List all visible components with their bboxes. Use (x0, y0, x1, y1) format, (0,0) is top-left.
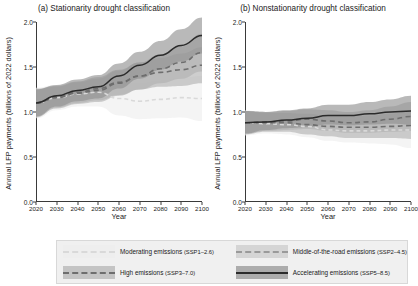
legend-scenario-code: (SSP2–4.5) (377, 249, 407, 255)
panel-a-x-tick-mark (119, 202, 120, 205)
panel-a-y-tick-mark (33, 67, 36, 68)
panel-a-y-tick-mark (33, 157, 36, 158)
legend-swatch (63, 266, 115, 279)
panel-a-y-tick-mark (33, 22, 36, 23)
panel-b-x-tick-mark (390, 202, 391, 205)
panel-b-curves (245, 22, 411, 202)
legend-scenario-code: (SSP3–7.0) (165, 270, 195, 276)
legend-label: Middle-of-the-road emissions (SSP2–4.5) (293, 248, 407, 255)
legend-swatch (236, 245, 288, 258)
panel-a-curves (36, 22, 202, 202)
legend-scenario-code: (SSP1–2.6) (184, 249, 214, 255)
legend-line (236, 272, 288, 274)
legend-label: Accelerating emissions (SSP5–8.5) (293, 269, 390, 276)
legend-item[interactable]: Middle-of-the-road emissions (SSP2–4.5) (230, 245, 407, 258)
panel-b-y-axis-label: Annual LFP payments (billions of 2022 do… (210, 22, 224, 204)
legend-line (63, 272, 115, 274)
panel-a-title: (a) Stationarity drought classification (0, 4, 208, 13)
panel-b-x-tick-mark (245, 202, 246, 205)
panel-b-y-tick-mark (242, 112, 245, 113)
panel-a-x-tick-mark (160, 202, 161, 205)
panel-a-x-axis-label: Year (36, 212, 202, 221)
panel-a-x-tick-mark (202, 202, 203, 205)
legend-label: High emissions (SSP3–7.0) (120, 269, 195, 276)
panel-b-y-tick-mark (242, 67, 245, 68)
legend-line (236, 251, 288, 253)
panel-a-x-tick-mark (77, 202, 78, 205)
panel-stationarity: (a) Stationarity drought classification … (0, 0, 208, 238)
panel-b-x-tick-mark (265, 202, 266, 205)
panel-a-y-axis-label: Annual LFP payments (billions of 2022 do… (1, 22, 15, 204)
panel-a-plot-area: 0.00.51.01.52.02020203020402050206020702… (36, 22, 202, 202)
panel-a-x-tick-mark (98, 202, 99, 205)
legend-line (63, 251, 115, 253)
legend-swatch (63, 245, 115, 258)
panel-b-y-tick-mark (242, 22, 245, 23)
legend-scenario-code: (SSP5–8.5) (360, 270, 390, 276)
panel-a-x-tick-mark (36, 202, 37, 205)
legend-item[interactable]: Moderating emissions (SSP1–2.6) (57, 245, 230, 258)
panel-b-x-tick-mark (286, 202, 287, 205)
panel-b-x-tick-mark (348, 202, 349, 205)
panel-a-x-tick-mark (181, 202, 182, 205)
legend: Moderating emissions (SSP1–2.6)Middle-of… (56, 240, 408, 284)
panel-b-title: (b) Nonstationarity drought classificati… (209, 4, 417, 13)
panel-b-x-tick-mark (411, 202, 412, 205)
panel-a-y-tick-mark (33, 112, 36, 113)
panel-a-x-tick-mark (139, 202, 140, 205)
panel-b-x-tick-mark (328, 202, 329, 205)
panel-b-x-tick-mark (307, 202, 308, 205)
panel-b-x-axis-label: Year (245, 212, 411, 221)
legend-item[interactable]: Accelerating emissions (SSP5–8.5) (230, 266, 407, 279)
panel-nonstationarity: (b) Nonstationarity drought classificati… (209, 0, 417, 238)
legend-item[interactable]: High emissions (SSP3–7.0) (57, 266, 230, 279)
panel-b-plot-area: 0.00.51.01.52.02020203020402050206020702… (245, 22, 411, 202)
legend-label: Moderating emissions (SSP1–2.6) (120, 248, 214, 255)
panel-a-x-tick-mark (56, 202, 57, 205)
panel-b-y-tick-mark (242, 157, 245, 158)
panel-b-x-tick-mark (369, 202, 370, 205)
legend-swatch (236, 266, 288, 279)
